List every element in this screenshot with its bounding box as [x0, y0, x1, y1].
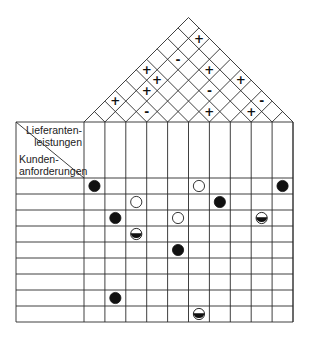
strong-relationship-icon	[89, 180, 100, 191]
roof-line	[178, 28, 272, 122]
positive-correlation-icon: +	[236, 73, 246, 87]
positive-correlation-icon: +	[204, 63, 214, 77]
roof-line	[94, 112, 104, 122]
supplier-label-line-1: Lieferanten-	[26, 124, 83, 136]
positive-correlation-icon: +	[204, 105, 214, 119]
strong-relationship-icon	[110, 212, 121, 223]
positive-correlation-icon: +	[142, 63, 152, 77]
strong-relationship-icon	[277, 180, 288, 191]
weak-relationship-icon	[131, 196, 142, 207]
strong-relationship-icon	[214, 196, 225, 207]
house-of-quality-diagram: +-+++++-+--++ Lieferanten- leistungen Ku…	[0, 0, 309, 340]
roof-line	[189, 70, 241, 122]
positive-correlation-icon: +	[194, 32, 204, 46]
strong-relationship-icon	[110, 292, 121, 303]
positive-correlation-icon: +	[110, 94, 120, 108]
positive-correlation-icon: +	[246, 105, 256, 119]
negative-correlation-icon: -	[144, 105, 149, 119]
header-box: Lieferanten- leistungen Kunden- anforder…	[19, 124, 87, 177]
customer-label-line-1: Kunden-	[19, 153, 59, 165]
customer-label-line-2: anforderungen	[19, 165, 87, 177]
strong-relationship-icon	[172, 244, 183, 255]
relationship-matrix-grid	[16, 122, 293, 322]
correlation-symbols: +-+++++-+--++	[110, 32, 264, 119]
negative-correlation-icon: -	[259, 94, 264, 108]
negative-correlation-icon: -	[176, 53, 181, 67]
weak-relationship-icon	[193, 180, 204, 191]
roof-line	[272, 112, 282, 122]
negative-correlation-icon: -	[207, 84, 212, 98]
positive-correlation-icon: +	[152, 73, 162, 87]
roof-line	[157, 49, 230, 122]
weak-relationship-icon	[172, 212, 183, 223]
supplier-label-line-2: leistungen	[34, 136, 82, 148]
positive-correlation-icon: +	[142, 84, 152, 98]
